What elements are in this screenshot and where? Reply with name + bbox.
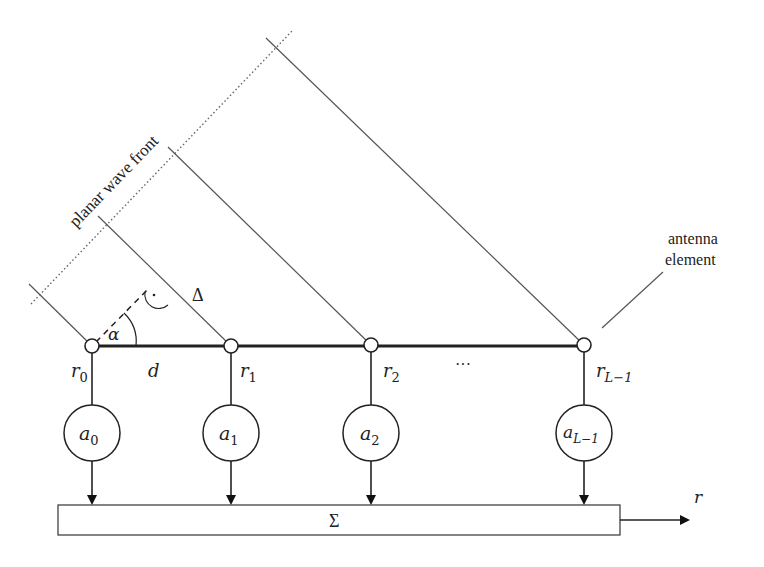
ellipsis: ··· [455,356,471,373]
spacing-label: d [148,360,160,381]
right-angle-dot [153,294,156,297]
alpha-arc [124,313,136,346]
path-difference-perpendicular [96,287,150,342]
r0-label: r0 [71,360,88,385]
antenna-element-label-line1: antenna [668,230,718,247]
ray-0 [29,284,92,346]
antenna-node-2 [364,338,378,352]
antenna-element-label-line2: element [665,251,716,268]
alpha-label: α [108,324,120,344]
right-angle-arc [145,292,168,308]
wave-front-line [31,31,292,304]
rL-1-label: rL−1 [596,360,632,385]
delta-label: Δ [192,285,204,305]
ray-2 [168,147,371,345]
ray-3 [266,38,584,345]
r1-label: r1 [240,360,257,385]
antenna-array-diagram: planar wave front α Δ antenna element r0… [0,0,764,567]
antenna-node-0 [85,339,99,353]
wave-front-label: planar wave front [65,131,162,231]
antenna-node-1 [224,339,238,353]
output-label: r [694,487,703,507]
sum-label: Σ [329,511,339,531]
antenna-element-pointer [602,272,663,328]
r2-label: r2 [383,360,400,385]
antenna-node-3 [577,338,591,352]
